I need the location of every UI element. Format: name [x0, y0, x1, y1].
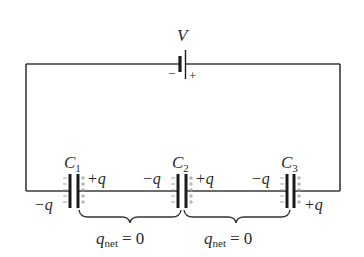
- c2-label: C2: [172, 153, 189, 174]
- curly-brace-1: [79, 210, 181, 223]
- c3-negative-ticks: [280, 178, 284, 202]
- c1-label: C1: [64, 153, 81, 174]
- battery-label: V: [177, 26, 190, 45]
- battery: V − +: [168, 26, 196, 83]
- c3-positive-ticks: [297, 176, 301, 204]
- capacitor-c1: C1 −q +q: [34, 153, 106, 214]
- curly-brace-2: [184, 210, 290, 223]
- brace-c2-c3: qnet= 0: [184, 210, 290, 249]
- brace-2-label: qnet= 0: [204, 229, 252, 249]
- c1-right-charge: +q: [87, 170, 106, 188]
- c2-negative-ticks: [171, 178, 175, 202]
- brace-c1-c2: qnet= 0: [79, 210, 181, 249]
- brace-1-label: qnet= 0: [96, 229, 144, 249]
- c3-left-charge: −q: [251, 170, 270, 188]
- c3-label: C3: [281, 153, 298, 174]
- c2-left-charge: −q: [142, 170, 161, 188]
- c1-positive-ticks: [81, 176, 85, 204]
- c2-right-charge: +q: [195, 170, 214, 188]
- battery-positive-sign: +: [189, 68, 196, 83]
- c1-left-charge: −q: [34, 196, 53, 214]
- c3-right-charge: +q: [304, 196, 323, 214]
- c2-positive-ticks: [189, 176, 193, 204]
- c1-negative-ticks: [63, 178, 67, 202]
- battery-negative-sign: −: [168, 66, 175, 81]
- capacitor-c3: C3 −q +q: [251, 153, 323, 214]
- capacitor-c2: C2 −q +q: [142, 153, 214, 208]
- circuit-diagram: V − + C1 −q +q: [0, 0, 364, 257]
